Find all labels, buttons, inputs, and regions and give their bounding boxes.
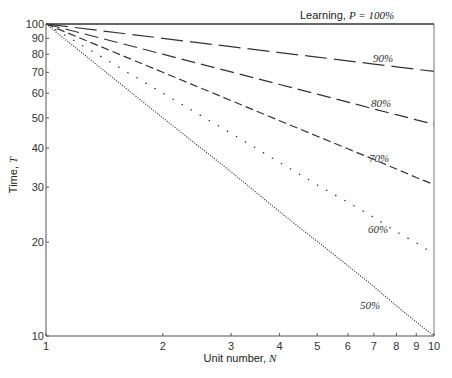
legend-value: 100%	[368, 9, 394, 21]
y-tick-label: 100	[26, 18, 44, 30]
x-tick-label: 6	[345, 340, 351, 352]
series-label: 80%	[371, 97, 391, 109]
series-80pct	[46, 24, 434, 124]
y-tick-label: 50	[32, 112, 44, 124]
y-tick-label: 40	[32, 142, 44, 154]
learning-curve-chart: 10203040506070809010012345678910 90%80%7…	[0, 0, 452, 378]
x-axis-var: N	[268, 352, 277, 364]
x-axis-title: Unit number, N	[204, 352, 277, 364]
x-tick-label: 1	[43, 340, 49, 352]
plot-lines	[46, 24, 434, 336]
y-tick-label: 30	[32, 181, 44, 193]
legend-header: Learning, P = 100%	[300, 9, 394, 21]
x-tick-label: 4	[277, 340, 283, 352]
x-tick-label: 9	[413, 340, 419, 352]
series-label: 50%	[360, 299, 380, 311]
series-50pct	[46, 24, 434, 336]
y-tick-label: 70	[32, 66, 44, 78]
legend-prefix: Learning,	[300, 9, 349, 21]
x-tick-label: 5	[314, 340, 320, 352]
y-tick-label: 60	[32, 87, 44, 99]
x-tick-label: 2	[160, 340, 166, 352]
x-tick-label: 7	[371, 340, 377, 352]
series-label: 60%	[368, 223, 388, 235]
x-tick-label: 10	[428, 340, 440, 352]
y-axis-var: T	[7, 156, 19, 163]
y-tick-label: 80	[32, 48, 44, 60]
labels: 90%80%70%60%50%Learning, P = 100%Unit nu…	[7, 9, 394, 364]
y-tick-label: 90	[32, 32, 44, 44]
y-axis-title: Time, T	[7, 156, 19, 193]
x-tick-label: 3	[228, 340, 234, 352]
series-label: 90%	[373, 52, 393, 64]
x-tick-label: 8	[393, 340, 399, 352]
x-axis-label: Unit number,	[204, 352, 269, 364]
y-axis-label: Time,	[7, 163, 19, 193]
series-label: 70%	[369, 152, 389, 164]
legend-var: P =	[348, 9, 368, 21]
y-tick-label: 20	[32, 236, 44, 248]
